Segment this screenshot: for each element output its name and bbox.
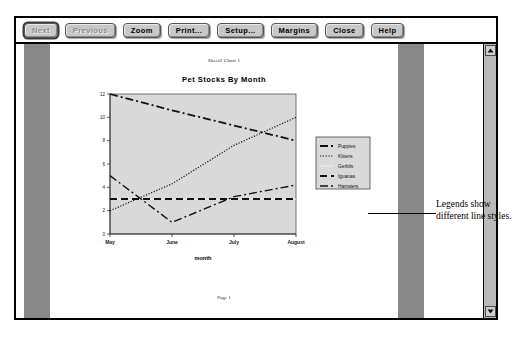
- next-button[interactable]: Next: [24, 23, 58, 38]
- zoom-button-label: Zoom: [131, 26, 153, 35]
- chart-graphic: 024681012 MayJuneJulyAugust month Puppie…: [66, 88, 382, 280]
- print-preview-window: Next Previous Zoom Print... Setup... Mar…: [14, 16, 498, 320]
- close-button-label: Close: [333, 26, 355, 35]
- legend-entry-label: Puppies: [338, 144, 356, 149]
- margins-button-label: Margins: [279, 26, 311, 35]
- help-button[interactable]: Help: [371, 23, 405, 38]
- previous-button-label: Previous: [73, 26, 108, 35]
- print-button[interactable]: Print...: [168, 23, 211, 38]
- y-tick-label: 2: [102, 208, 105, 213]
- help-button-label: Help: [379, 26, 397, 35]
- preview-toolbar: Next Previous Zoom Print... Setup... Mar…: [16, 18, 496, 44]
- next-button-label: Next: [32, 26, 50, 35]
- callout-leader-line: [368, 213, 436, 214]
- chart-legend[interactable]: PuppiesKittensGerbilsIguanasHamsters: [316, 137, 370, 189]
- legend-entry-label: Gerbils: [338, 164, 354, 169]
- vertical-scrollbar[interactable]: [483, 44, 496, 318]
- y-tick-label: 6: [102, 162, 105, 167]
- margins-button[interactable]: Margins: [271, 23, 319, 38]
- page-footer: Page 1: [50, 295, 398, 300]
- print-button-label: Print...: [176, 26, 203, 35]
- preview-body: Sheet2 Chart 1 Pet Stocks By Month 02468…: [16, 44, 496, 318]
- callout-annotation: Legends show different line styles.: [436, 199, 522, 222]
- close-button[interactable]: Close: [325, 23, 363, 38]
- x-tick-label: August: [287, 239, 305, 245]
- x-tick-label: July: [229, 239, 239, 245]
- scroll-up-arrow-icon[interactable]: [485, 45, 496, 56]
- zoom-button[interactable]: Zoom: [123, 23, 161, 38]
- scroll-down-arrow-icon[interactable]: [485, 306, 496, 317]
- x-axis-title: month: [194, 255, 212, 261]
- y-axis-ticks: 024681012: [100, 92, 110, 237]
- legend-entry-label: Iguanas: [338, 174, 356, 179]
- y-tick-label: 4: [102, 185, 105, 190]
- sheet-caption: Sheet2 Chart 1: [50, 58, 398, 63]
- setup-button[interactable]: Setup...: [217, 23, 263, 38]
- page-surround-right: [398, 44, 424, 318]
- y-tick-label: 0: [102, 232, 105, 237]
- y-tick-label: 10: [100, 115, 106, 120]
- printed-page: Sheet2 Chart 1 Pet Stocks By Month 02468…: [50, 44, 398, 318]
- x-tick-label: June: [166, 239, 178, 245]
- setup-button-label: Setup...: [225, 26, 255, 35]
- chart-title: Pet Stocks By Month: [50, 75, 398, 84]
- y-tick-label: 8: [102, 138, 105, 143]
- previous-button[interactable]: Previous: [65, 23, 116, 38]
- page-surround-left: [24, 44, 50, 318]
- y-tick-label: 12: [100, 92, 106, 97]
- legend-entry-label: Kittens: [338, 154, 353, 159]
- legend-entry-label: Hamsters: [338, 184, 359, 189]
- x-tick-label: May: [105, 239, 115, 245]
- line-chart-svg: 024681012 MayJuneJulyAugust month Puppie…: [66, 88, 382, 280]
- x-axis-ticks: MayJuneJulyAugust: [105, 234, 305, 245]
